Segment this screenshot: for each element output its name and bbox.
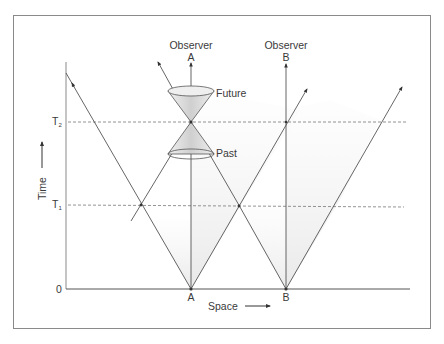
origin-label: 0: [56, 284, 62, 295]
t2-tick-label: T2: [52, 116, 62, 128]
base-label-b: B: [282, 292, 289, 303]
arrow-icon: [72, 83, 74, 87]
cone-shade-b-left: [240, 200, 286, 289]
observer-a-label: Observer A: [169, 40, 212, 62]
t1-tick-label: T1: [52, 199, 62, 211]
base-label-a: A: [187, 292, 194, 303]
future-cone-rim: [168, 86, 214, 96]
future-label: Future: [216, 88, 246, 99]
cone-shade-b-right: [286, 100, 380, 289]
time-axis-label: Time: [36, 177, 48, 200]
past-label: Past: [216, 148, 237, 159]
spacetime-diagram: Observer A Observer B Future Past T2 T1 …: [0, 0, 444, 344]
observer-b-label: Observer B: [264, 40, 307, 62]
diagram-canvas: [0, 0, 444, 344]
ray-a-left: [66, 73, 191, 289]
space-axis-label: Space: [208, 301, 238, 312]
